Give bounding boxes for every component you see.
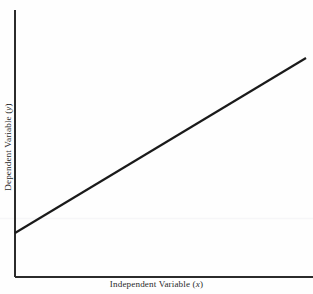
plot-area bbox=[0, 0, 313, 294]
x-axis-label: Independent Variable (x) bbox=[0, 279, 313, 289]
x-axis-label-suffix: ) bbox=[200, 279, 203, 289]
x-axis-label-prefix: Independent Variable ( bbox=[110, 279, 196, 289]
chart-figure: Dependent Variable (y) Independent Varia… bbox=[0, 0, 313, 294]
trend-line-series-1 bbox=[15, 58, 306, 233]
